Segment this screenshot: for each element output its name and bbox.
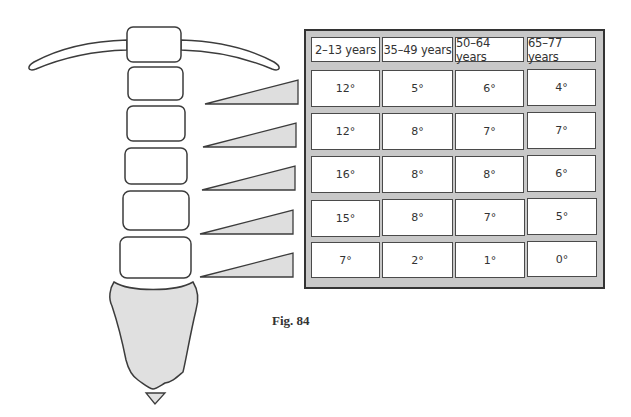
wedge-segment-4 (200, 210, 293, 234)
coccyx (146, 393, 165, 404)
header-cell: 35–49 years (382, 37, 453, 62)
header-cell: 65–77 years (527, 37, 596, 62)
table-cell: 5° (527, 198, 597, 235)
table-cell: 1° (455, 242, 525, 278)
vertebra-t12 (127, 27, 181, 62)
vertebra-l3 (125, 148, 187, 184)
table-cell: 7° (311, 242, 380, 278)
range-of-motion-table: 2–13 years 35–49 years 50–64 years 65–77… (304, 29, 605, 289)
table-cell: 7° (455, 113, 524, 150)
table-cell: 4° (527, 69, 596, 106)
wedge-segment-3 (202, 166, 295, 190)
table-cell: 6° (455, 70, 524, 107)
table-cell: 12° (311, 70, 380, 107)
vertebra-l4 (123, 191, 189, 230)
table-cell: 7° (527, 112, 596, 149)
table-cell: 16° (311, 156, 380, 193)
vertebra-l1 (128, 67, 183, 100)
table-cell: 15° (311, 200, 380, 237)
wedge-segment-1 (205, 80, 298, 104)
table-cell: 7° (455, 199, 525, 236)
vertebra-l5 (120, 237, 191, 278)
header-cell: 50–64 years (455, 37, 524, 62)
wedge-segment-5 (200, 253, 293, 277)
table-cell: 0° (527, 241, 597, 277)
sacrum (110, 282, 198, 389)
rib-arc (181, 40, 279, 70)
table-cell: 12° (311, 113, 380, 150)
rib-arc (29, 40, 127, 70)
vertebra-l2 (127, 106, 185, 141)
header-cell: 2–13 years (311, 37, 380, 62)
table-cell: 8° (455, 156, 524, 193)
figure-caption: Fig. 84 (272, 313, 310, 329)
table-cell: 6° (527, 155, 596, 192)
table-cell: 8° (382, 156, 453, 193)
table-cell: 2° (382, 242, 453, 278)
table-cell: 5° (382, 70, 453, 107)
table-cell: 8° (382, 113, 453, 150)
table-cell: 8° (382, 199, 453, 236)
wedge-segment-2 (203, 123, 296, 147)
